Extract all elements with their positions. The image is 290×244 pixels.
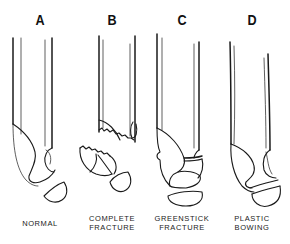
greenstick-fracture-bone-icon	[146, 0, 218, 210]
panel-plastic-bowing: D PLASTIC BOWING	[216, 0, 288, 244]
plastic-bowing-bone-icon	[216, 0, 288, 210]
normal-bone-icon	[4, 0, 76, 210]
complete-fracture-bone-icon	[76, 0, 148, 210]
panel-normal: A NORMAL	[4, 0, 76, 244]
panel-complete-fracture: B COMPLETE FRACTURE	[76, 0, 148, 244]
caption-line: PLASTIC	[208, 214, 290, 223]
panel-greenstick-fracture: C GREENSTICK FRACTURE	[146, 0, 218, 244]
caption-plastic-bowing: PLASTIC BOWING	[208, 214, 290, 232]
caption-line: BOWING	[208, 223, 290, 232]
